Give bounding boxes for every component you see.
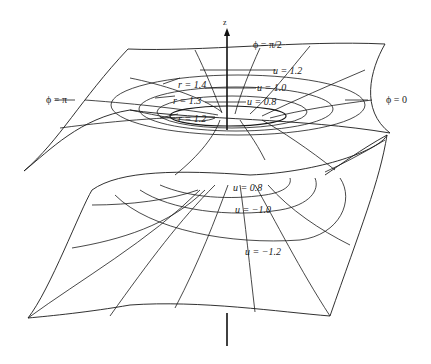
wormhole-diagram: z ϕ = π/2 ϕ = π ϕ = 0 r = 1.4 r = 1.3 r … bbox=[0, 0, 431, 364]
label-u-08-bottom: u = 0.8 bbox=[233, 183, 262, 193]
surface-drawing bbox=[0, 0, 431, 364]
label-u-10: u = 1.0 bbox=[257, 83, 286, 93]
lower-radial bbox=[268, 185, 350, 245]
label-phi-half-pi: ϕ = π/2 bbox=[253, 40, 282, 50]
label-u-08-top: u = 0.8 bbox=[247, 97, 276, 107]
label-r-14: r = 1.4 bbox=[178, 80, 206, 90]
label-r-13: r = 1.3 bbox=[173, 96, 201, 106]
upper-radial bbox=[262, 120, 335, 170]
lower-radial bbox=[28, 190, 200, 318]
arrow-r13 bbox=[155, 96, 175, 98]
z-axis-arrow bbox=[224, 28, 230, 36]
upper-radial bbox=[240, 120, 265, 160]
lower-sheet-outline bbox=[28, 135, 387, 318]
label-phi-zero: ϕ = 0 bbox=[386, 95, 407, 105]
label-phi-pi: ϕ = π bbox=[46, 95, 67, 105]
label-u-m10: u = −1.0 bbox=[235, 205, 271, 215]
z-axis-label: z bbox=[223, 19, 227, 27]
lower-radial bbox=[175, 185, 228, 308]
lower-ring-u-m12 bbox=[115, 178, 346, 241]
label-r-12: r = 1.2 bbox=[178, 114, 206, 124]
upper-radial bbox=[262, 70, 365, 116]
label-u-12: u = 1.2 bbox=[273, 66, 302, 76]
upper-radial bbox=[175, 120, 220, 175]
lower-radial bbox=[72, 190, 205, 248]
label-u-m12: u = −1.2 bbox=[245, 247, 281, 257]
